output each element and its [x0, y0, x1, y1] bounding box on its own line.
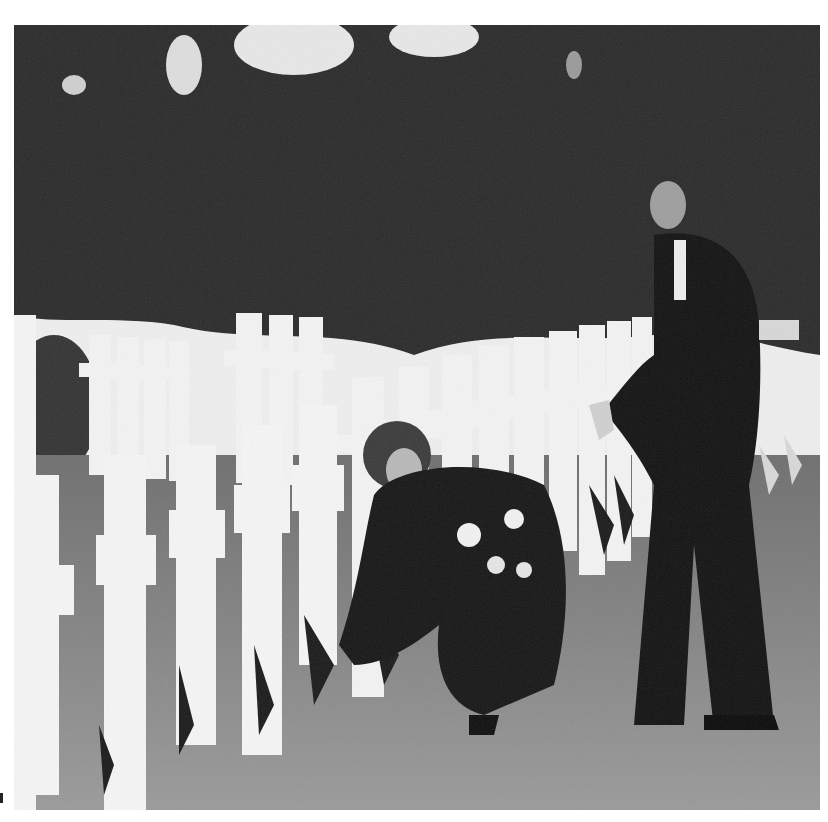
photo-scene — [14, 25, 820, 810]
cemetery-photograph — [14, 25, 820, 810]
edge-mark — [0, 793, 3, 803]
film-grain — [14, 25, 820, 810]
